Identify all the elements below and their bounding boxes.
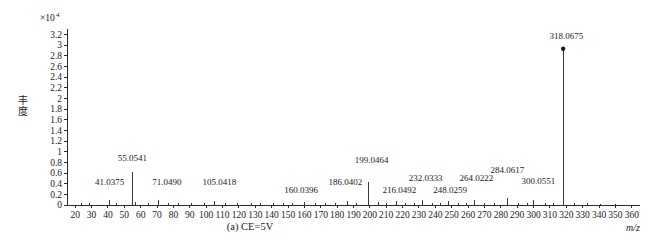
y-tick-label: 2 [57, 94, 62, 104]
x-tick-label: 310 [543, 210, 558, 220]
x-tick-label: 300 [526, 210, 541, 220]
x-tick-label: 190 [346, 210, 361, 220]
y-axis-multiplier-text: ×10 [40, 13, 55, 23]
x-axis-title: m/z [626, 222, 640, 233]
y-tick-label: 2.2 [50, 83, 62, 93]
peak-marker [561, 47, 565, 51]
peak-annotation: 160.0396 [284, 185, 318, 195]
y-tick-label: 0 [57, 200, 62, 210]
y-axis-ticks: 00.20.40.60.811.21.41.61.822.22.42.62.83… [50, 30, 67, 211]
peak-annotation: 71.0490 [152, 177, 182, 187]
x-tick-label: 180 [330, 210, 345, 220]
y-tick-label: 1.4 [50, 126, 62, 136]
x-tick-label: 20 [70, 210, 80, 220]
peak-annotation: 300.0551 [522, 176, 556, 186]
y-tick-label: 3.2 [50, 30, 62, 40]
x-tick-label: 230 [412, 210, 427, 220]
x-axis-ticks: 2030405060708090100110120130140150160170… [70, 205, 639, 220]
peak-labels: 41.037555.054171.0490105.0418160.0396186… [95, 31, 584, 195]
peak-annotation: 199.0464 [355, 155, 389, 165]
x-tick-label: 150 [281, 210, 296, 220]
peak-annotation: 318.0675 [549, 31, 583, 41]
peak-annotation: 232.0333 [409, 173, 443, 183]
x-tick-label: 60 [136, 210, 146, 220]
y-tick-label: 2.8 [50, 51, 62, 61]
spectrum-plot: ×10 4 00.20.40.60.811.21.41.61.822.22.42… [0, 0, 652, 242]
x-tick-label: 160 [297, 210, 312, 220]
x-tick-label: 350 [608, 210, 623, 220]
y-tick-label: 0.8 [50, 158, 62, 168]
peak-annotation: 216.0492 [382, 185, 416, 195]
y-tick-label: 1.8 [50, 104, 62, 114]
x-tick-label: 220 [395, 210, 410, 220]
x-tick-label: 130 [248, 210, 263, 220]
x-tick-label: 200 [363, 210, 378, 220]
x-tick-label: 240 [428, 210, 443, 220]
y-tick-label: 0.4 [50, 179, 62, 189]
x-tick-label: 40 [103, 210, 113, 220]
x-tick-label: 360 [625, 210, 640, 220]
x-tick-label: 280 [494, 210, 509, 220]
x-tick-label: 170 [314, 210, 329, 220]
peak-annotation: 284.0617 [491, 165, 525, 175]
y-tick-label: 3 [57, 40, 62, 50]
x-tick-label: 90 [185, 210, 195, 220]
y-tick-label: 2.6 [50, 62, 62, 72]
x-tick-label: 330 [576, 210, 591, 220]
x-tick-label: 210 [379, 210, 394, 220]
x-tick-label: 100 [199, 210, 214, 220]
peak-annotation: 248.0259 [433, 185, 467, 195]
y-tick-label: 1.2 [50, 136, 62, 146]
peak-annotation: 41.0375 [95, 177, 125, 187]
x-tick-label: 320 [559, 210, 574, 220]
x-tick-label: 30 [87, 210, 97, 220]
peak-annotation: 105.0418 [202, 177, 236, 187]
peak-annotation: 186.0402 [328, 177, 362, 187]
y-tick-label: 2.4 [50, 72, 62, 82]
figure-caption: (a) CE=5V [227, 221, 274, 233]
x-tick-label: 110 [216, 210, 230, 220]
y-tick-label: 1.6 [50, 115, 62, 125]
x-tick-label: 80 [169, 210, 179, 220]
x-tick-label: 250 [445, 210, 460, 220]
y-axis-multiplier-exponent: 4 [56, 11, 60, 19]
x-tick-label: 340 [592, 210, 607, 220]
x-tick-label: 70 [152, 210, 162, 220]
x-tick-label: 260 [461, 210, 476, 220]
y-tick-label: 0.2 [50, 190, 62, 200]
x-tick-label: 50 [120, 210, 130, 220]
mass-spectrum-figure: 丰度 ×10 4 00.20.40.60.811.21.41.61.822.22… [0, 0, 652, 242]
x-tick-label: 120 [232, 210, 247, 220]
y-axis-multiplier: ×10 4 [40, 11, 60, 23]
peak-annotation: 55.0541 [118, 153, 147, 163]
y-tick-label: 1 [57, 147, 62, 157]
x-tick-label: 270 [477, 210, 492, 220]
y-tick-label: 0.6 [50, 168, 62, 178]
peak-annotation: 264.0222 [459, 173, 493, 183]
x-tick-label: 140 [265, 210, 280, 220]
x-tick-label: 290 [510, 210, 525, 220]
